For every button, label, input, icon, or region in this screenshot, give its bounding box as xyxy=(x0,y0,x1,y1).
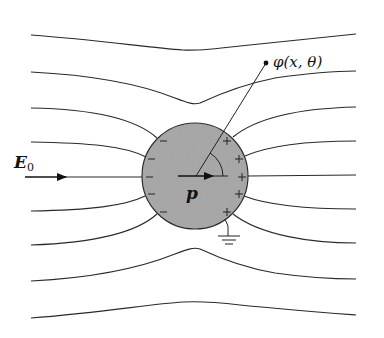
field-line-6 xyxy=(31,196,145,211)
field-line-2 xyxy=(31,71,356,104)
potential-label: φ(x, θ) xyxy=(273,53,322,71)
field-line-5-right xyxy=(248,175,356,176)
ground-icon xyxy=(218,219,240,244)
field-line-1 xyxy=(31,34,356,50)
field-line-6-right xyxy=(244,196,356,209)
field-line-3 xyxy=(31,108,157,138)
field-line-3-right xyxy=(233,107,356,137)
sphere-in-field-diagram: E0 p φ(x, θ) xyxy=(0,0,384,338)
field-line-7-right xyxy=(233,214,356,243)
field-line-9 xyxy=(31,302,356,318)
field-label: E0 xyxy=(13,152,34,174)
field-point-dot xyxy=(264,61,269,66)
field-line-4 xyxy=(31,142,146,157)
field-line-8 xyxy=(31,248,356,281)
field-line-4-right xyxy=(245,141,356,156)
field-line-7 xyxy=(31,214,157,245)
dipole-label: p xyxy=(186,183,198,203)
